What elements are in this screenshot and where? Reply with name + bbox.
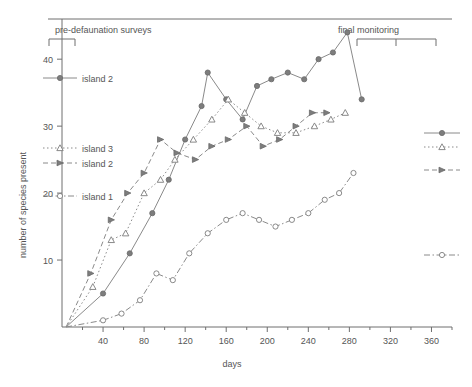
y-tick-label: 20	[43, 189, 53, 199]
x-tick-label: 240	[301, 336, 316, 346]
data-point	[90, 284, 96, 290]
data-point	[166, 177, 171, 182]
legend-right-item-1	[424, 144, 460, 150]
data-point	[316, 57, 321, 62]
legend-left-item-3: island 1	[43, 192, 113, 202]
legend-label: island 1	[82, 192, 113, 202]
legend-right-item-2	[424, 167, 460, 173]
data-point	[205, 70, 210, 75]
data-point	[225, 137, 231, 143]
data-point	[141, 190, 147, 196]
data-point	[309, 110, 315, 116]
data-point	[240, 211, 245, 216]
data-point	[108, 217, 114, 223]
data-point	[209, 116, 215, 122]
data-point	[269, 77, 274, 82]
y-axis-ticks: 10203040	[43, 55, 62, 266]
data-point	[240, 117, 245, 122]
data-point	[351, 170, 356, 175]
legend-marker	[439, 130, 444, 135]
data-point	[209, 143, 215, 149]
legend-left-item-0: island 2	[43, 74, 113, 84]
x-tick-label: 40	[98, 336, 108, 346]
data-point	[183, 137, 188, 142]
x-axis-title: days	[222, 359, 242, 369]
x-tick-label: 160	[219, 336, 234, 346]
x-tick-label: 280	[342, 336, 357, 346]
data-point	[190, 136, 196, 142]
data-point	[293, 123, 299, 129]
data-point	[125, 190, 131, 196]
data-point	[260, 143, 266, 149]
x-axis-ticks: 4080120160200240280320360	[83, 327, 452, 346]
data-point	[289, 217, 294, 222]
data-point	[137, 298, 142, 303]
legend-marker	[57, 193, 62, 198]
y-axis-title: number of species present	[18, 151, 28, 258]
legend-left-item-2: island 2	[43, 159, 113, 169]
data-point	[158, 137, 164, 143]
data-point	[359, 97, 364, 102]
annotation-pre-defaunation: pre-defaunation surveys	[55, 25, 152, 35]
series-line	[66, 99, 345, 327]
x-tick-label: 320	[383, 336, 398, 346]
legend-left-item-1: island 3	[43, 144, 113, 154]
data-point	[119, 311, 124, 316]
data-point	[330, 50, 335, 55]
chart-container: pre-defaunation surveys final monitoring…	[0, 0, 472, 387]
y-tick-label: 40	[43, 55, 53, 65]
species-accumulation-chart: pre-defaunation surveys final monitoring…	[0, 0, 472, 387]
data-point	[108, 237, 114, 243]
data-point	[170, 278, 175, 283]
legend-marker	[57, 75, 62, 80]
data-point	[311, 123, 317, 129]
data-point	[337, 190, 342, 195]
data-point	[154, 271, 159, 276]
legend-marker	[439, 252, 444, 257]
data-point	[342, 110, 348, 116]
y-tick-label: 10	[43, 256, 53, 266]
data-point	[150, 211, 155, 216]
data-point	[127, 251, 132, 256]
data-point	[224, 217, 229, 222]
data-point	[273, 224, 278, 229]
x-tick-label: 120	[178, 336, 193, 346]
data-point	[192, 157, 198, 163]
legend-left: island 2island 3island 2island 1	[43, 74, 113, 202]
x-tick-label: 360	[424, 336, 439, 346]
x-tick-label: 200	[260, 336, 275, 346]
data-point	[322, 197, 327, 202]
data-point	[254, 83, 259, 88]
legend-right-item-3	[424, 252, 460, 257]
data-point	[88, 271, 94, 277]
data-point	[302, 77, 307, 82]
data-point	[285, 70, 290, 75]
y-tick-label: 30	[43, 122, 53, 132]
data-point	[205, 231, 210, 236]
legend-label: island 2	[82, 74, 113, 84]
data-point	[122, 230, 128, 236]
data-point	[100, 318, 105, 323]
legend-right-item-0	[424, 130, 460, 135]
data-point	[187, 251, 192, 256]
data-point	[274, 130, 280, 136]
legend-label: island 3	[82, 144, 113, 154]
data-point	[199, 103, 204, 108]
data-point	[324, 110, 330, 116]
data-point	[244, 123, 250, 129]
data-point	[157, 176, 163, 182]
data-point	[256, 217, 261, 222]
data-point	[306, 211, 311, 216]
data-point	[141, 170, 147, 176]
data-point	[100, 291, 105, 296]
legend-marker	[439, 167, 445, 173]
data-point	[328, 116, 334, 122]
legend-label: island 2	[82, 159, 113, 169]
x-tick-label: 80	[139, 336, 149, 346]
data-point	[345, 30, 350, 35]
legend-right	[424, 130, 460, 257]
